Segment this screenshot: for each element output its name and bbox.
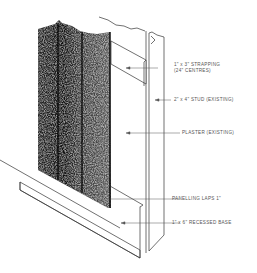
strapping bbox=[111, 41, 146, 86]
wall-detail-drawing bbox=[0, 0, 257, 273]
label-stud: 2" x 4" STUD (EXISTING) bbox=[174, 97, 234, 103]
label-strapping-line2: (24" CENTRES) bbox=[174, 68, 220, 74]
label-panelling: PANELLING LAPS 1" bbox=[172, 196, 221, 202]
label-base: 1" x 6" RECESSED BASE bbox=[172, 220, 232, 226]
leader-lines bbox=[110, 67, 180, 224]
label-plaster: PLASTER (EXISTING) bbox=[182, 130, 234, 136]
panelling bbox=[38, 20, 111, 208]
label-strapping: 1" x 3" STRAPPING (24" CENTRES) bbox=[174, 62, 220, 74]
